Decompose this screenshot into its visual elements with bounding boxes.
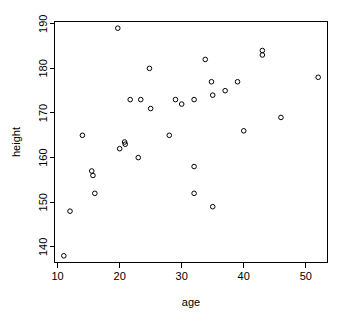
y-tick-label: 170 [37,104,49,122]
x-tick-label: 20 [114,270,126,282]
x-axis-title: age [182,296,200,308]
y-tick-label: 160 [37,148,49,166]
y-tick-label: 140 [37,238,49,256]
x-tick-label: 10 [51,270,63,282]
y-tick-label: 180 [37,59,49,77]
x-tick-label: 40 [238,270,250,282]
y-tick-label: 190 [37,15,49,33]
chart-canvas: 1020304050 140150160170180190 age height [0,0,346,321]
y-tick-label: 150 [37,193,49,211]
scatter-plot-figure: 1020304050 140150160170180190 age height [0,0,346,321]
x-tick-label: 50 [300,270,312,282]
y-axis-title: height [10,127,22,157]
x-tick-label: 30 [176,270,188,282]
